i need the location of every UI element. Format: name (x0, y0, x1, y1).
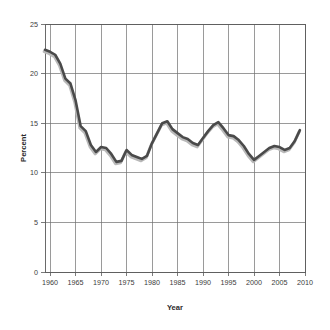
x-tick-label: 1975 (119, 278, 135, 287)
x-tick-label: 1965 (68, 278, 84, 287)
x-tick-label: 1990 (195, 278, 211, 287)
x-tick-label: 2005 (272, 278, 288, 287)
x-tick-label: 1970 (93, 278, 109, 287)
y-axis-title: Percent (19, 134, 28, 162)
x-tick-labels: 1960196519701975198019851990199520002005… (42, 278, 313, 287)
chart-figure: 1960196519701975198019851990199520002005… (0, 0, 330, 330)
line-chart: 1960196519701975198019851990199520002005… (0, 0, 330, 330)
y-tick-label: 0 (34, 268, 38, 277)
x-tick-marks (50, 272, 305, 276)
x-tick-label: 1985 (170, 278, 186, 287)
y-tick-label: 15 (30, 119, 38, 128)
x-tick-label: 1980 (144, 278, 160, 287)
y-tick-label: 25 (30, 20, 38, 29)
plot-background (45, 24, 305, 272)
x-tick-label: 1995 (221, 278, 237, 287)
x-axis-title: Year (167, 303, 183, 312)
x-tick-label: 1960 (42, 278, 58, 287)
y-tick-marks (41, 24, 45, 272)
y-tick-label: 20 (30, 69, 38, 78)
x-tick-label: 2000 (246, 278, 262, 287)
y-tick-label: 5 (34, 218, 38, 227)
y-tick-label: 10 (30, 168, 38, 177)
y-tick-labels: 0510152025 (30, 20, 38, 277)
x-tick-label: 2010 (297, 278, 313, 287)
